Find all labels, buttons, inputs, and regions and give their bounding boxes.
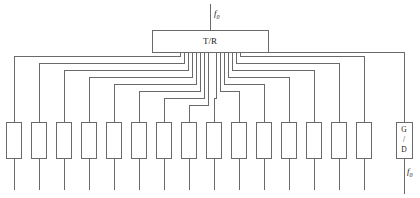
element-module-box[interactable]	[157, 122, 172, 158]
gd-module-label-line: G	[401, 125, 407, 134]
gd-module-label-line: D	[401, 145, 407, 154]
output-frequency-label: f0	[407, 166, 413, 178]
block-diagram: T/R G/D f0 f0	[0, 0, 420, 198]
feed-network-wires	[14, 52, 404, 122]
feed-branch-right	[236, 52, 339, 122]
element-module-box[interactable]	[307, 122, 322, 158]
element-module-box[interactable]	[182, 122, 197, 158]
element-module-box[interactable]	[107, 122, 122, 158]
element-module-box[interactable]	[82, 122, 97, 158]
input-frequency-label: f0	[214, 8, 220, 20]
element-module-box[interactable]	[57, 122, 72, 158]
element-module-box[interactable]	[332, 122, 347, 158]
module-stub-lines	[14, 158, 364, 190]
element-modules	[7, 122, 372, 158]
element-module-box[interactable]	[7, 122, 22, 158]
element-module-box[interactable]	[282, 122, 297, 158]
element-module-box[interactable]	[232, 122, 247, 158]
element-module-box[interactable]	[357, 122, 372, 158]
tr-module-label: T/R	[203, 36, 217, 46]
element-module-box[interactable]	[132, 122, 147, 158]
diagram-canvas: T/R G/D f0 f0	[0, 0, 420, 198]
element-module-box[interactable]	[257, 122, 272, 158]
feed-branch-left	[39, 52, 184, 122]
feed-branch-right	[214, 52, 216, 122]
feed-branch-gd	[244, 52, 404, 112]
element-module-box[interactable]	[207, 122, 222, 158]
element-module-box[interactable]	[32, 122, 47, 158]
